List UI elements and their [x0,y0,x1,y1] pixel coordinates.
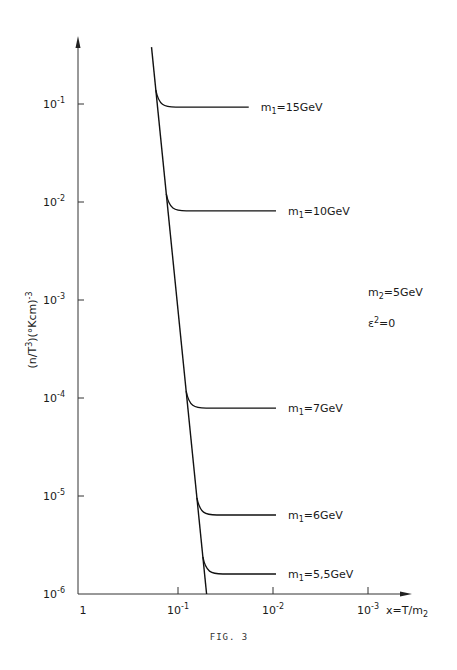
y-tick-label: 10-4 [43,390,65,405]
chart-canvas: 10-110-210-310-410-510-6 110-110-210-3 m… [0,0,457,670]
x-ticks: 110-110-210-3 [80,587,379,617]
y-tick-label: 10-1 [43,96,65,111]
x-tick-label: 10-3 [357,602,379,617]
series-curve [156,90,249,107]
series-label: m1=5,5GeV [288,568,354,583]
annotation-m2: m2=5GeV [368,286,423,301]
annotation-epsilon: ε2=0 [368,316,395,330]
series-label: m1=15GeV [261,101,323,116]
y-axis-label: (n/T3)(°Kcm)-3 [25,291,39,368]
x-tick-label: 10-1 [167,602,189,617]
x-axis-arrow-icon [400,592,412,597]
x-tick-label: 10-2 [262,602,284,617]
series-curve [186,391,276,408]
y-tick-label: 10-3 [43,292,65,307]
figure-caption: FIG. 3 [210,632,249,642]
series-curves: m1=15GeVm1=10GeVm1=7GeVm1=6GeVm1=5,5GeV [156,90,354,583]
y-tick-label: 10-2 [43,194,65,209]
series-curve [166,194,276,211]
equilibrium-line [152,47,207,594]
series-label: m1=6GeV [288,509,343,524]
y-axis-arrow-icon [76,36,81,48]
x-tick-label: 1 [80,604,87,617]
x-axis-label: x=T/m2 [386,604,428,619]
series-curve [203,557,276,574]
y-tick-label: 10-5 [43,488,65,503]
series-curve [197,498,276,515]
series-label: m1=7GeV [288,402,343,417]
x-axis [78,592,412,597]
series-label: m1=10GeV [288,205,350,220]
y-axis [76,36,81,594]
y-tick-label: 10-6 [43,586,65,601]
